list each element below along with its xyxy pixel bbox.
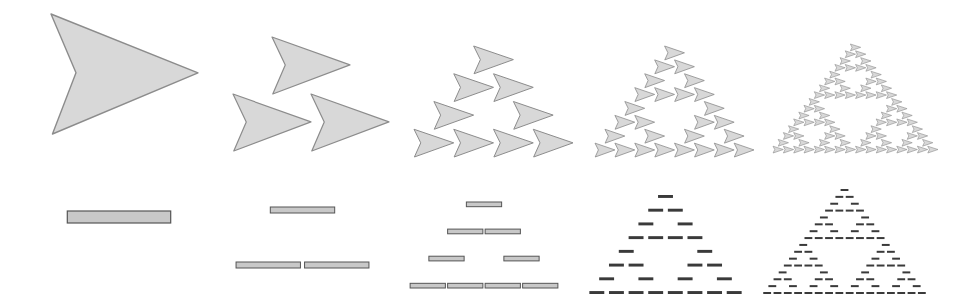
bar-segment (866, 292, 874, 294)
bar-segment (768, 285, 776, 287)
bar-segment (866, 265, 874, 267)
bar-segment (825, 223, 833, 225)
arrow-shape (675, 143, 695, 157)
arrow-shape (783, 133, 793, 140)
arrow-shape (494, 129, 534, 157)
bar-segment (629, 236, 644, 239)
arrow-shape (902, 139, 912, 146)
bar-segment (763, 292, 771, 294)
arrow-shape (881, 139, 891, 146)
arrow-shape (876, 92, 886, 99)
bar-segment (908, 292, 916, 294)
bar-segment (687, 236, 702, 239)
arrow-shape (814, 92, 824, 99)
arrow-shape (861, 85, 871, 92)
bar-segment (897, 265, 905, 267)
arrow-shape (513, 102, 553, 130)
arrow-shape (615, 115, 635, 129)
arrow-shape (714, 143, 734, 157)
bar-segment (892, 258, 900, 260)
arrow-shape (675, 88, 695, 102)
arrow-iterations-row (51, 14, 938, 157)
arrow-shape (856, 146, 866, 153)
bar-segment (774, 278, 782, 280)
arrow-shape (881, 85, 891, 92)
arrow-shape (704, 102, 724, 116)
arrow-shape (655, 143, 675, 157)
arrow-shape (799, 112, 809, 119)
arrow-shape (876, 146, 886, 153)
arrow-shape (825, 133, 835, 140)
bar-segment (638, 277, 653, 280)
arrow-panel-level-3 (595, 46, 754, 157)
arrow-shape (928, 146, 938, 153)
bar-segment (856, 237, 864, 239)
arrow-shape (694, 115, 714, 129)
arrow-shape (773, 146, 783, 153)
bar-segment (820, 216, 828, 218)
bar-segment (835, 237, 843, 239)
arrow-shape (635, 143, 655, 157)
bar-segment (877, 265, 885, 267)
arrow-shape (825, 92, 835, 99)
arrow-shape (866, 92, 876, 99)
bar-segment (638, 222, 653, 225)
arrow-shape (845, 146, 855, 153)
bar-segment (877, 237, 885, 239)
arrow-shape (788, 126, 798, 133)
bar-segment (678, 222, 693, 225)
arrow-shape (897, 146, 907, 153)
bar-segment (466, 202, 501, 207)
arrow-shape (835, 146, 845, 153)
bar-segment (902, 271, 910, 273)
arrow-shape (625, 102, 645, 116)
bar-segment (305, 262, 369, 268)
bar-segment (846, 210, 854, 212)
bar-segment (599, 277, 614, 280)
arrow-shape (684, 74, 704, 88)
arrow-shape (907, 119, 917, 126)
arrow-shape (819, 85, 829, 92)
arrow-shape (794, 133, 804, 140)
arrow-shape (902, 112, 912, 119)
bar-segment (784, 292, 792, 294)
bar-segment (846, 196, 854, 198)
bar-segment (856, 223, 864, 225)
arrow-shape (886, 105, 896, 112)
bar-segment (668, 291, 683, 294)
bar-segment (897, 292, 905, 294)
bar-segment (815, 278, 823, 280)
bar-segment (815, 237, 823, 239)
arrow-shape (814, 119, 824, 126)
arrow-shape (454, 74, 494, 102)
bar-panel-level-1 (236, 207, 369, 268)
arrow-shape (917, 146, 927, 153)
bar-segment (270, 207, 334, 213)
bar-segment (727, 291, 742, 294)
bar-segment (429, 256, 464, 261)
bar-segment (717, 277, 732, 280)
arrow-shape (809, 99, 819, 106)
arrow-shape (645, 129, 665, 143)
bar-segment (485, 283, 520, 288)
bar-segment (678, 277, 693, 280)
bar-segment (804, 251, 812, 253)
arrow-shape (595, 143, 615, 157)
bar-segment (897, 278, 905, 280)
arrow-shape (886, 92, 896, 99)
bar-segment (835, 196, 843, 198)
bar-segment (866, 223, 874, 225)
arrow-shape (881, 112, 891, 119)
arrow-shape (835, 64, 845, 71)
bar-segment (810, 230, 818, 232)
arrow-shape (876, 119, 886, 126)
bar-segment (825, 210, 833, 212)
arrow-shape (635, 115, 655, 129)
arrow-shape (684, 129, 704, 143)
arrow-shape (645, 74, 665, 88)
bar-segment (794, 265, 802, 267)
arrow-shape (845, 51, 855, 58)
arrow-shape (655, 60, 675, 74)
arrow-shape (272, 37, 350, 94)
bar-segment (687, 291, 702, 294)
